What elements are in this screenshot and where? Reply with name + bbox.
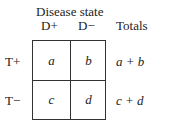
column-header-totals: Totals: [116, 19, 148, 32]
cell-d: d: [70, 80, 107, 119]
cell-c: c: [33, 80, 70, 119]
contingency-table: a b c d: [32, 40, 106, 120]
cell-b: b: [70, 41, 107, 80]
disease-state-title: Disease state: [36, 5, 104, 18]
column-header-d-negative: D−: [78, 19, 95, 32]
row-total-c-plus-d: c + d: [116, 94, 144, 107]
row-label-t-negative: T−: [5, 94, 20, 107]
cell-a: a: [33, 41, 70, 80]
row-total-a-plus-b: a + b: [116, 55, 144, 68]
column-header-d-positive: D+: [41, 19, 58, 32]
row-label-t-positive: T+: [5, 55, 20, 68]
